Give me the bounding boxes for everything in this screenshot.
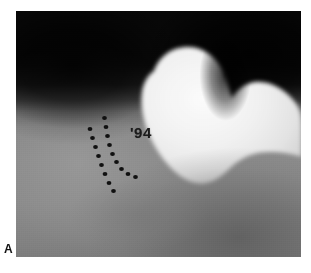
dotted-line-outer (88, 127, 116, 193)
dotted-reference-lines (16, 11, 301, 257)
hip-radiograph-image: '94 (16, 11, 301, 257)
date-annotation: '94 (130, 125, 152, 140)
panel-label: A (4, 243, 13, 255)
figure-root: '94 A (0, 0, 311, 273)
